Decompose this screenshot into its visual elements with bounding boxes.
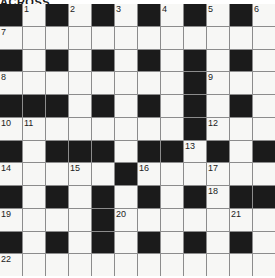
grid-cell-white[interactable] (69, 72, 91, 94)
grid-cell-white[interactable] (161, 72, 183, 94)
grid-cell-white[interactable] (23, 186, 45, 208)
grid-cell-white[interactable] (23, 72, 45, 94)
grid-cell-white[interactable]: 21 (230, 209, 252, 231)
grid-cell-white[interactable] (207, 95, 229, 117)
grid-cell-white[interactable] (253, 50, 275, 72)
grid-cell-white[interactable] (92, 72, 114, 94)
grid-cell-white[interactable] (230, 163, 252, 185)
grid-cell-white[interactable]: 17 (207, 163, 229, 185)
grid-cell-white[interactable] (207, 27, 229, 49)
grid-cell-white[interactable] (92, 163, 114, 185)
grid-cell-white[interactable] (46, 163, 68, 185)
grid-cell-white[interactable] (115, 118, 137, 140)
grid-cell-white[interactable] (138, 118, 160, 140)
grid-cell-white[interactable]: 20 (115, 209, 137, 231)
grid-cell-white[interactable] (161, 163, 183, 185)
grid-cell-white[interactable] (161, 254, 183, 276)
grid-cell-white[interactable] (46, 27, 68, 49)
grid-cell-white[interactable]: 14 (0, 163, 22, 185)
grid-cell-white[interactable] (253, 72, 275, 94)
grid-cell-white[interactable] (230, 72, 252, 94)
grid-cell-white[interactable] (115, 72, 137, 94)
grid-cell-white[interactable] (230, 118, 252, 140)
grid-cell-white[interactable] (115, 95, 137, 117)
grid-cell-white[interactable]: 4 (161, 4, 183, 26)
grid-cell-white[interactable] (69, 209, 91, 231)
grid-cell-white[interactable] (23, 27, 45, 49)
grid-cell-white[interactable]: 9 (207, 72, 229, 94)
grid-cell-white[interactable] (207, 254, 229, 276)
grid-cell-white[interactable]: 11 (23, 118, 45, 140)
grid-cell-white[interactable] (184, 254, 206, 276)
grid-cell-white[interactable] (115, 186, 137, 208)
grid-cell-white[interactable] (161, 95, 183, 117)
grid-cell-white[interactable] (115, 50, 137, 72)
grid-cell-white[interactable]: 8 (0, 72, 22, 94)
grid-cell-white[interactable] (253, 163, 275, 185)
grid-cell-white[interactable] (69, 186, 91, 208)
grid-cell-white[interactable] (184, 163, 206, 185)
grid-cell-white[interactable]: 22 (0, 254, 22, 276)
grid-cell-white[interactable] (69, 254, 91, 276)
grid-cell-white[interactable] (207, 232, 229, 254)
grid-cell-white[interactable] (69, 50, 91, 72)
grid-cell-white[interactable] (161, 27, 183, 49)
grid-cell-white[interactable]: 15 (69, 163, 91, 185)
grid-cell-white[interactable]: 16 (138, 163, 160, 185)
grid-cell-white[interactable]: 5 (207, 4, 229, 26)
grid-cell-white[interactable] (207, 50, 229, 72)
grid-cell-white[interactable]: 13 (184, 141, 206, 163)
grid-cell-white[interactable] (46, 254, 68, 276)
grid-cell-white[interactable]: 19 (0, 209, 22, 231)
grid-cell-white[interactable] (184, 209, 206, 231)
grid-cell-white[interactable] (23, 209, 45, 231)
grid-cell-white[interactable]: 2 (69, 4, 91, 26)
grid-cell-white[interactable] (207, 209, 229, 231)
grid-cell-white[interactable] (161, 50, 183, 72)
grid-cell-white[interactable] (115, 27, 137, 49)
grid-cell-white[interactable] (161, 186, 183, 208)
grid-cell-white[interactable] (92, 27, 114, 49)
grid-cell-white[interactable] (69, 27, 91, 49)
grid-cell-white[interactable] (69, 232, 91, 254)
grid-cell-white[interactable] (230, 27, 252, 49)
grid-cell-white[interactable] (46, 118, 68, 140)
grid-cell-white[interactable] (46, 209, 68, 231)
grid-cell-white[interactable] (115, 254, 137, 276)
grid-cell-white[interactable] (23, 163, 45, 185)
grid-cell-white[interactable] (253, 254, 275, 276)
grid-cell-white[interactable] (138, 254, 160, 276)
grid-cell-white[interactable]: 6 (253, 4, 275, 26)
grid-cell-white[interactable] (115, 232, 137, 254)
grid-cell-white[interactable] (161, 209, 183, 231)
grid-cell-white[interactable] (138, 27, 160, 49)
grid-cell-white[interactable] (230, 141, 252, 163)
grid-cell-white[interactable] (23, 232, 45, 254)
crossword-grid[interactable]: 12345678910111213141516171819202122 (0, 4, 275, 276)
grid-cell-white[interactable] (161, 118, 183, 140)
grid-cell-white[interactable] (92, 118, 114, 140)
grid-cell-white[interactable] (253, 118, 275, 140)
grid-cell-white[interactable] (138, 209, 160, 231)
grid-cell-white[interactable] (46, 72, 68, 94)
grid-cell-white[interactable]: 3 (115, 4, 137, 26)
grid-cell-white[interactable] (138, 72, 160, 94)
grid-cell-white[interactable] (184, 27, 206, 49)
grid-cell-white[interactable]: 12 (207, 118, 229, 140)
grid-cell-white[interactable]: 18 (207, 186, 229, 208)
grid-cell-white[interactable] (161, 232, 183, 254)
grid-cell-white[interactable] (23, 50, 45, 72)
grid-cell-white[interactable]: 10 (0, 118, 22, 140)
grid-cell-white[interactable] (69, 95, 91, 117)
grid-cell-white[interactable] (23, 141, 45, 163)
grid-cell-white[interactable] (115, 141, 137, 163)
grid-cell-white[interactable] (253, 209, 275, 231)
grid-cell-white[interactable]: 7 (0, 27, 22, 49)
grid-cell-white[interactable] (253, 95, 275, 117)
grid-cell-white[interactable] (69, 118, 91, 140)
grid-cell-white[interactable]: 1 (23, 4, 45, 26)
grid-cell-white[interactable] (92, 254, 114, 276)
grid-cell-white[interactable] (23, 254, 45, 276)
grid-cell-white[interactable] (230, 254, 252, 276)
grid-cell-white[interactable] (253, 27, 275, 49)
